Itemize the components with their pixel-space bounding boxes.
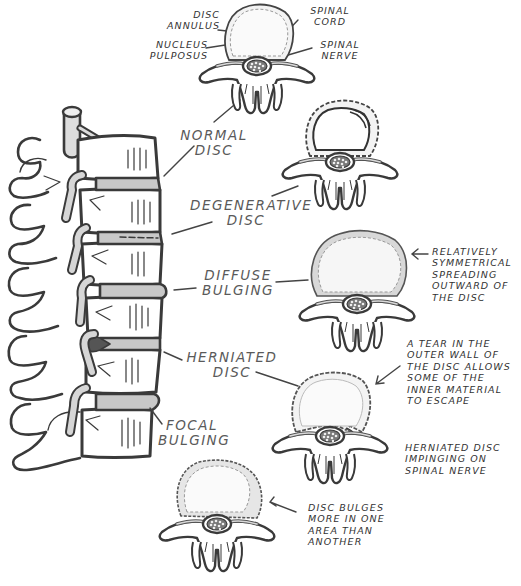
label-spinal-cord: SPINAL CORD	[304, 6, 356, 28]
note-herniated-impinge: HERNIATED DISC IMPINGING ON SPINAL NERVE	[405, 442, 501, 476]
label-spinal-nerve: SPINAL NERVE	[314, 40, 366, 62]
lateral-spine	[9, 107, 166, 470]
label-normal-disc: NORMAL DISC	[178, 128, 250, 157]
label-degenerative-disc: DEGENERATIVE DISC	[190, 198, 302, 227]
vertebra-focal-bulging	[160, 460, 274, 571]
label-herniated-disc: HERNIATED DISC	[186, 350, 278, 379]
label-diffuse-bulging: DIFFUSE BULGING	[200, 268, 276, 297]
note-focal: DISC BULGES MORE IN ONE AREA THAN ANOTHE…	[308, 502, 385, 548]
label-disc-annulus: DISC ANNULUS	[164, 10, 220, 32]
vertebra-degenerative	[283, 101, 397, 210]
vertebra-diffuse-bulging	[300, 231, 414, 351]
label-focal-bulging: FOCAL BULGING	[158, 418, 226, 447]
vertebra-herniated	[273, 373, 387, 484]
note-herniated-tear: A TEAR IN THE OUTER WALL OF THE DISC ALL…	[407, 338, 511, 406]
note-diffuse: RELATIVELY SYMMETRICAL SPREADING OUTWARD…	[432, 246, 512, 303]
label-nucleus-pulposus: NUCLEUS PULPOSUS	[142, 40, 208, 62]
